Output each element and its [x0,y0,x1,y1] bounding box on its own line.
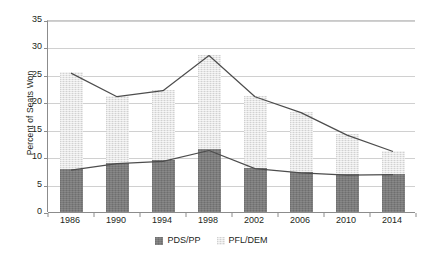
x-tick-label-1986: 1986 [47,215,93,226]
x-tick-label-2014: 2014 [369,215,415,226]
chart-legend: PDS/PPPFL/DEM [0,236,423,245]
legend-swatch-icon [155,237,163,245]
legend-entry[interactable]: PDS/PP [155,236,200,245]
legend-label: PFL/DEM [229,236,268,245]
y-tick-label-0: 0 [20,207,42,216]
y-tick-label-10: 10 [20,152,42,161]
x-tick-label-1998: 1998 [185,215,231,226]
y-tick-label-15: 15 [20,125,42,134]
y-tick-mark-0 [44,213,48,214]
y-tick-label-5: 5 [20,180,42,189]
legend-entry[interactable]: PFL/DEM [217,236,268,245]
overlay-lines-layer [48,21,416,213]
x-tick-label-2002: 2002 [231,215,277,226]
y-tick-label-20: 20 [20,97,42,106]
y-tick-label-35: 35 [20,15,42,24]
plot-area [47,20,415,212]
x-tick-label-2010: 2010 [323,215,369,226]
legend-label: PDS/PP [167,236,200,245]
chart-container: Percent of Seats Won 05101520253035 1986… [0,0,423,257]
x-tick-label-1990: 1990 [93,215,139,226]
y-tick-label-30: 30 [20,42,42,51]
legend-swatch-icon [217,237,225,245]
line-total-line [71,56,393,152]
x-axis-tick-labels: 19861990199419982002200620102014 [47,215,415,229]
line-pds-pp-line [71,150,393,175]
x-tick-label-1994: 1994 [139,215,185,226]
x-tick-label-2006: 2006 [277,215,323,226]
y-tick-label-25: 25 [20,70,42,79]
y-axis-tick-labels: 05101520253035 [16,0,42,257]
